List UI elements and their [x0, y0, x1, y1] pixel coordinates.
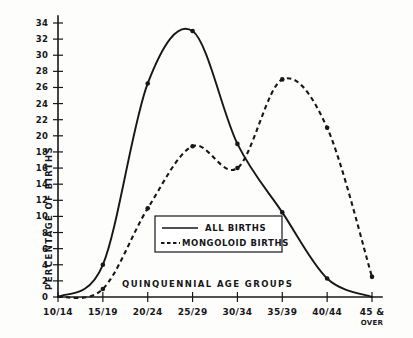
y-tick-label: 0 [42, 292, 48, 302]
legend-label-mongoloid-births: MONGOLOID BIRTHS [182, 238, 289, 248]
data-point-marker [280, 210, 285, 215]
data-point-marker [235, 142, 240, 147]
y-tick-label: 22 [36, 115, 48, 125]
data-point-marker [190, 144, 195, 149]
y-tick-label: 28 [36, 66, 48, 76]
x-tick-label: 45 & [360, 307, 385, 317]
chart-container: 0246810121416182022242628303234 10/1415/… [0, 0, 413, 338]
series-mongoloid-births-markers [101, 77, 375, 291]
data-point-marker [325, 276, 330, 281]
data-point-marker [280, 77, 285, 82]
x-tick-label: 15/19 [88, 307, 118, 317]
y-tick-label: 30 [36, 50, 48, 60]
x-axis-tick-labels: 10/1415/1920/2425/2930/3435/3940/4445 &O… [43, 307, 384, 327]
data-point-marker [101, 262, 106, 267]
x-tick-label-sub: OVER [361, 319, 384, 327]
data-point-marker [190, 29, 195, 34]
data-point-marker [145, 206, 150, 211]
data-point-marker [101, 287, 106, 292]
x-axis-title: QUINQUENNIAL AGE GROUPS [122, 279, 293, 289]
data-point-marker [145, 81, 150, 86]
data-point-marker [235, 166, 240, 171]
legend-label-all-births: ALL BIRTHS [205, 223, 266, 233]
series-all-births-line [58, 29, 372, 297]
legend: ALL BIRTHS MONGOLOID BIRTHS [155, 216, 289, 252]
x-tick-label: 25/29 [178, 307, 208, 317]
x-tick-label: 20/24 [133, 307, 163, 317]
data-point-marker [325, 125, 330, 130]
line-chart: 0246810121416182022242628303234 10/1415/… [0, 0, 413, 338]
y-axis-title: PERCENTAGE OF BIRTHS [44, 146, 54, 290]
y-tick-label: 20 [36, 131, 48, 141]
data-point-marker [370, 275, 375, 280]
y-tick-label: 32 [36, 34, 48, 44]
x-tick-label: 30/34 [223, 307, 253, 317]
x-tick-label: 40/44 [312, 307, 342, 317]
y-tick-label: 34 [36, 18, 48, 28]
x-tick-label: 35/39 [267, 307, 297, 317]
y-tick-label: 26 [36, 82, 48, 92]
y-tick-label: 24 [36, 99, 48, 109]
x-tick-label: 10/14 [43, 307, 73, 317]
